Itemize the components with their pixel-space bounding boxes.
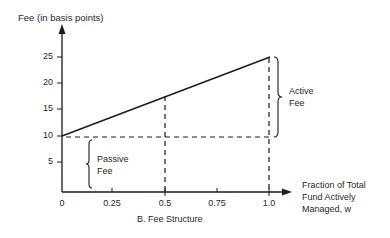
passive-fee-label-line-1: Passive — [97, 154, 129, 165]
y-axis-label: Fee (in basis points) — [18, 12, 104, 23]
active-fee-label-line-2: Fee — [289, 98, 305, 109]
y-axis-arrow-icon — [59, 24, 66, 34]
x-axis-label-line-2: Fund Actively — [302, 192, 356, 203]
y-ticks — [57, 57, 62, 162]
active-fee-brace — [274, 57, 282, 137]
x-tick-label-0.5: 0.5 — [150, 198, 180, 209]
chart-title: B. Fee Structure — [137, 214, 203, 225]
x-tick-label-0.75: 0.75 — [202, 198, 232, 209]
active-fee-label-line-1: Active — [289, 86, 314, 97]
x-tick-label-0: 0 — [47, 198, 77, 209]
y-tick-label-10: 10 — [33, 130, 53, 141]
y-tick-label-5: 5 — [33, 156, 53, 167]
passive-fee-label-line-2: Fee — [97, 166, 113, 177]
passive-fee-brace — [86, 140, 92, 188]
x-tick-label-0.25: 0.25 — [97, 198, 127, 209]
total-fee-line — [62, 57, 270, 136]
x-tick-label-1.0: 1.0 — [254, 198, 284, 209]
x-axis-arrow-icon — [282, 189, 292, 196]
x-axis-label-line-1: Fraction of Total — [302, 180, 366, 191]
y-tick-label-25: 25 — [33, 51, 53, 62]
y-tick-label-15: 15 — [33, 103, 53, 114]
y-tick-label-20: 20 — [33, 77, 53, 88]
x-axis-label-line-3: Managed, w — [302, 204, 351, 215]
